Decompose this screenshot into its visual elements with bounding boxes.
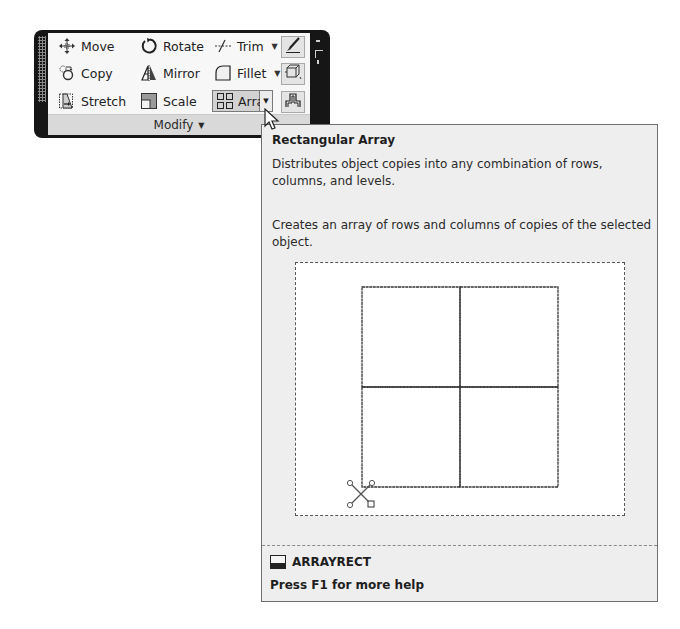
chevron-down-icon: ▼ (263, 97, 268, 105)
array-preview-drawing (296, 263, 624, 515)
stretch-button[interactable]: Stretch (58, 91, 126, 111)
fillet-icon (214, 64, 232, 82)
rotate-icon (140, 37, 158, 55)
fillet-dropdown-icon[interactable]: ▼ (274, 69, 280, 78)
rotate-button[interactable]: Rotate (140, 36, 204, 56)
explode-icon (284, 63, 302, 85)
array-preview-image (295, 262, 625, 516)
command-name-row: ARRAYRECT (270, 555, 371, 569)
erase-button[interactable] (281, 36, 305, 58)
trim-button[interactable]: Trim ▼ (214, 36, 278, 56)
base-point-grip-icon (347, 480, 374, 507)
tooltip-description: Distributes object copies into any combi… (272, 156, 654, 190)
array-cell (362, 387, 460, 487)
offset-icon (284, 91, 302, 113)
copy-label: Copy (81, 66, 113, 81)
trim-label: Trim (237, 39, 264, 54)
scale-button[interactable]: Scale (140, 91, 197, 111)
panel-title: Modify (154, 118, 194, 132)
scale-label: Scale (163, 94, 197, 109)
trim-icon (214, 37, 232, 55)
offset-button[interactable] (281, 91, 305, 113)
mirror-label: Mirror (163, 66, 200, 81)
array-icon (216, 92, 234, 110)
chevron-down-icon: ▼ (198, 121, 204, 130)
array-cell (460, 287, 558, 387)
scale-icon (140, 92, 158, 110)
help-hint: Press F1 for more help (270, 578, 424, 592)
array-button[interactable]: Array (212, 90, 260, 112)
array-cell (362, 287, 460, 387)
mirror-button[interactable]: Mirror (140, 63, 200, 83)
command-line-icon (270, 555, 286, 569)
stretch-icon (58, 92, 76, 110)
move-label: Move (81, 39, 115, 54)
command-name: ARRAYRECT (292, 555, 371, 569)
fillet-label: Fillet (237, 66, 266, 81)
mirror-icon (140, 64, 158, 82)
rectangular-array-tooltip: Rectangular Array Distributes object cop… (261, 124, 658, 602)
trim-dropdown-icon[interactable]: ▼ (272, 42, 278, 51)
pin-panel-icon[interactable] (312, 36, 326, 76)
explode-button[interactable] (281, 63, 305, 85)
move-icon (58, 37, 76, 55)
stretch-label: Stretch (81, 94, 126, 109)
fillet-button[interactable]: Fillet ▼ (214, 63, 280, 83)
panel-grip-handle[interactable] (38, 36, 46, 102)
move-button[interactable]: Move (58, 36, 115, 56)
array-cell (460, 387, 558, 487)
mouse-cursor-icon (263, 108, 281, 132)
tooltip-separator (262, 545, 657, 546)
erase-brush-icon (284, 36, 302, 58)
rotate-label: Rotate (163, 39, 204, 54)
tooltip-title: Rectangular Array (272, 133, 395, 147)
copy-button[interactable]: Copy (58, 63, 113, 83)
copy-icon (58, 64, 76, 82)
tooltip-detail: Creates an array of rows and columns of … (272, 217, 654, 251)
